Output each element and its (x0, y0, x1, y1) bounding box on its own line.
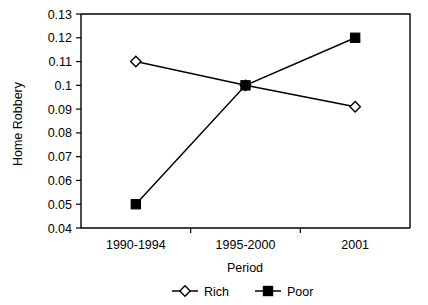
y-axis-tick-labels: 0.130.120.110.10.090.080.070.060.050.04 (48, 8, 72, 236)
y-tick-label: 0.08 (48, 126, 72, 140)
x-axis-category-labels: 1990-19941995-20002001 (106, 238, 369, 252)
y-tick-label: 0.12 (48, 31, 72, 45)
plot-frame (81, 14, 410, 228)
y-tick-label: 0.05 (48, 198, 72, 212)
series-poor (131, 33, 360, 209)
chart-canvas: 0.130.120.110.10.090.080.070.060.050.04 … (0, 0, 428, 305)
series-line-poor (136, 38, 355, 204)
y-tick-label: 0.04 (48, 222, 72, 236)
legend-label-rich: Rich (204, 285, 229, 299)
x-axis-tick-marks (191, 228, 301, 233)
x-category-label: 2001 (341, 238, 369, 252)
y-tick-label: 0.09 (48, 103, 72, 117)
y-tick-label: 0.07 (48, 150, 72, 164)
data-point-poor-2 (351, 33, 360, 42)
line-chart-figure: 0.130.120.110.10.090.080.070.060.050.04 … (0, 0, 428, 305)
data-point-rich-2 (350, 102, 360, 112)
y-axis-tick-marks (76, 14, 81, 228)
legend-item-rich[interactable]: Rich (172, 285, 229, 299)
y-tick-label: 0.13 (48, 8, 72, 22)
legend-marker-rich (180, 286, 190, 296)
y-tick-label: 0.06 (48, 174, 72, 188)
data-point-poor-0 (131, 200, 140, 209)
chart-legend: RichPoor (172, 285, 313, 299)
legend-marker-poor (263, 286, 272, 295)
y-tick-label: 0.11 (49, 55, 72, 69)
y-tick-label: 0.1 (55, 79, 72, 93)
y-axis-title: Home Robbery (11, 81, 25, 166)
data-point-poor-1 (241, 81, 250, 90)
legend-item-poor[interactable]: Poor (255, 285, 313, 299)
x-axis-title: Period (227, 261, 263, 275)
x-category-label: 1990-1994 (106, 238, 166, 252)
x-category-label: 1995-2000 (216, 238, 276, 252)
legend-label-poor: Poor (287, 285, 313, 299)
series-layer (131, 33, 361, 209)
data-point-rich-0 (131, 56, 141, 66)
